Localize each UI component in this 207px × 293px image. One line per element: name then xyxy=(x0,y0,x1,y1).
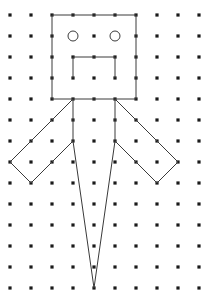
grid-dot[interactable] xyxy=(8,181,11,184)
grid-dot[interactable] xyxy=(155,55,158,58)
grid-dot[interactable] xyxy=(50,244,53,247)
grid-dot[interactable] xyxy=(113,244,116,247)
grid-dot[interactable] xyxy=(176,181,179,184)
grid-dot[interactable] xyxy=(197,34,200,37)
grid-dot[interactable] xyxy=(8,34,11,37)
grid-dot[interactable] xyxy=(197,223,200,226)
grid-dot[interactable] xyxy=(197,55,200,58)
grid-dot[interactable] xyxy=(155,34,158,37)
grid-dot[interactable] xyxy=(176,139,179,142)
grid-dot[interactable] xyxy=(8,265,11,268)
grid-dot[interactable] xyxy=(8,223,11,226)
grid-dot[interactable] xyxy=(197,118,200,121)
grid-dot[interactable] xyxy=(134,139,137,142)
grid-dot[interactable] xyxy=(176,97,179,100)
grid-dot[interactable] xyxy=(71,286,74,289)
grid-dot[interactable] xyxy=(155,76,158,79)
grid-dot[interactable] xyxy=(155,97,158,100)
grid-dot[interactable] xyxy=(29,55,32,58)
grid-dot[interactable] xyxy=(155,118,158,121)
grid-dot[interactable] xyxy=(71,202,74,205)
grid-dot[interactable] xyxy=(92,202,95,205)
grid-dot[interactable] xyxy=(92,265,95,268)
grid-dot[interactable] xyxy=(155,202,158,205)
grid-dot[interactable] xyxy=(155,13,158,16)
grid-dot[interactable] xyxy=(50,223,53,226)
grid-dot[interactable] xyxy=(29,118,32,121)
grid-dot[interactable] xyxy=(50,286,53,289)
grid-dot[interactable] xyxy=(8,118,11,121)
grid-dot[interactable] xyxy=(134,202,137,205)
grid-dot[interactable] xyxy=(92,139,95,142)
grid-dot[interactable] xyxy=(197,181,200,184)
grid-dot[interactable] xyxy=(71,244,74,247)
grid-dot[interactable] xyxy=(113,223,116,226)
grid-dot[interactable] xyxy=(113,265,116,268)
grid-dot[interactable] xyxy=(176,55,179,58)
grid-dot[interactable] xyxy=(155,223,158,226)
grid-dot[interactable] xyxy=(50,202,53,205)
grid-dot[interactable] xyxy=(197,97,200,100)
grid-dot[interactable] xyxy=(71,160,74,163)
grid-dot[interactable] xyxy=(8,76,11,79)
grid-dot[interactable] xyxy=(29,34,32,37)
grid-dot[interactable] xyxy=(134,223,137,226)
grid-dot[interactable] xyxy=(92,34,95,37)
grid-dot[interactable] xyxy=(29,223,32,226)
grid-dot[interactable] xyxy=(113,202,116,205)
grid-dot[interactable] xyxy=(197,286,200,289)
grid-dot[interactable] xyxy=(113,286,116,289)
grid-dot[interactable] xyxy=(29,97,32,100)
grid-dot[interactable] xyxy=(176,202,179,205)
grid-dot[interactable] xyxy=(134,265,137,268)
grid-dot[interactable] xyxy=(29,286,32,289)
grid-dot[interactable] xyxy=(29,76,32,79)
grid-dot[interactable] xyxy=(71,181,74,184)
grid-dot[interactable] xyxy=(8,139,11,142)
grid-dot[interactable] xyxy=(155,286,158,289)
grid-dot[interactable] xyxy=(29,13,32,16)
grid-dot[interactable] xyxy=(50,265,53,268)
grid-dot[interactable] xyxy=(176,34,179,37)
grid-dot[interactable] xyxy=(134,181,137,184)
grid-dot[interactable] xyxy=(176,76,179,79)
grid-dot[interactable] xyxy=(155,160,158,163)
grid-dot[interactable] xyxy=(8,13,11,16)
grid-dot[interactable] xyxy=(29,202,32,205)
grid-dot[interactable] xyxy=(134,244,137,247)
grid-dot[interactable] xyxy=(50,139,53,142)
grid-dot[interactable] xyxy=(113,160,116,163)
grid-dot[interactable] xyxy=(29,160,32,163)
grid-dot[interactable] xyxy=(176,223,179,226)
grid-dot[interactable] xyxy=(197,244,200,247)
grid-dot[interactable] xyxy=(176,286,179,289)
grid-dot[interactable] xyxy=(134,286,137,289)
grid-dot[interactable] xyxy=(71,223,74,226)
grid-dot[interactable] xyxy=(50,181,53,184)
grid-dot[interactable] xyxy=(197,139,200,142)
grid-dot[interactable] xyxy=(197,13,200,16)
grid-dot[interactable] xyxy=(197,265,200,268)
grid-dot[interactable] xyxy=(197,76,200,79)
grid-dot[interactable] xyxy=(29,265,32,268)
grid-dot[interactable] xyxy=(8,244,11,247)
grid-dot[interactable] xyxy=(197,202,200,205)
grid-dot[interactable] xyxy=(176,118,179,121)
grid-dot[interactable] xyxy=(155,265,158,268)
grid-dot[interactable] xyxy=(8,286,11,289)
grid-dot[interactable] xyxy=(29,244,32,247)
grid-dot[interactable] xyxy=(92,160,95,163)
grid-dot[interactable] xyxy=(176,13,179,16)
grid-dot[interactable] xyxy=(8,202,11,205)
grid-dot[interactable] xyxy=(92,244,95,247)
grid-dot[interactable] xyxy=(92,181,95,184)
grid-dot[interactable] xyxy=(92,223,95,226)
grid-dot[interactable] xyxy=(197,160,200,163)
grid-dot[interactable] xyxy=(92,118,95,121)
grid-dot[interactable] xyxy=(8,97,11,100)
grid-dot[interactable] xyxy=(176,244,179,247)
grid-dot[interactable] xyxy=(155,244,158,247)
grid-dot[interactable] xyxy=(113,181,116,184)
grid-dot[interactable] xyxy=(8,55,11,58)
grid-dot[interactable] xyxy=(176,265,179,268)
